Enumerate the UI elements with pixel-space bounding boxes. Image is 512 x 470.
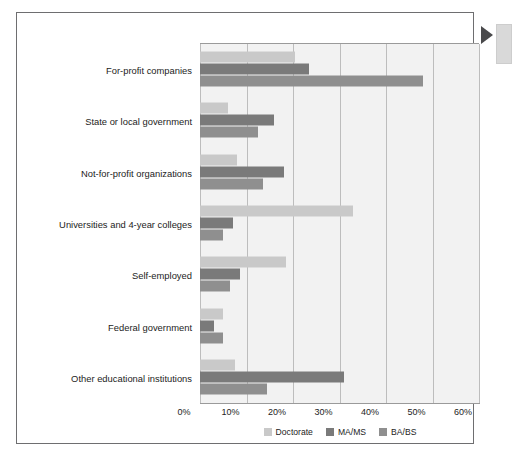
category-row: Self-employed xyxy=(200,250,479,301)
bar-group xyxy=(200,257,479,294)
x-tick-label: 40% xyxy=(361,407,379,417)
bar xyxy=(200,51,295,62)
bar xyxy=(200,384,267,395)
bar-group xyxy=(200,205,479,242)
category-row: State or local government xyxy=(200,95,479,146)
bar xyxy=(200,257,286,268)
bar xyxy=(200,154,237,165)
legend-swatch xyxy=(326,428,334,436)
legend-swatch xyxy=(379,428,387,436)
bar xyxy=(200,217,233,228)
category-label: Self-employed xyxy=(25,270,200,281)
bar xyxy=(200,103,228,114)
bar xyxy=(200,178,263,189)
x-tick-label: 10% xyxy=(221,407,239,417)
x-tick-label: 60% xyxy=(454,407,472,417)
legend-item: MA/MS xyxy=(326,427,366,437)
category-label: For-profit companies xyxy=(25,64,200,75)
bar xyxy=(200,127,258,138)
triangle-right-icon xyxy=(481,26,493,44)
category-row: For-profit companies xyxy=(200,44,479,95)
x-tick-label: 0% xyxy=(177,407,190,417)
legend-label: BA/BS xyxy=(391,427,416,437)
gridline xyxy=(479,44,480,403)
bar xyxy=(200,115,274,126)
bar-group xyxy=(200,308,479,345)
x-tick-label: 50% xyxy=(407,407,425,417)
category-label: Other educational institutions xyxy=(25,373,200,384)
bar xyxy=(200,269,240,280)
bar xyxy=(200,63,309,74)
legend-swatch xyxy=(264,428,272,436)
category-label: Universities and 4-year colleges xyxy=(25,218,200,229)
legend-label: MA/MS xyxy=(338,427,366,437)
chart-frame: For-profit companiesState or local gover… xyxy=(16,12,474,444)
bar-group xyxy=(200,360,479,397)
x-tick-label: 30% xyxy=(314,407,332,417)
bar xyxy=(200,308,223,319)
bar xyxy=(200,75,423,86)
bar xyxy=(200,332,223,343)
plot-area: For-profit companiesState or local gover… xyxy=(200,43,479,403)
legend-item: BA/BS xyxy=(379,427,416,437)
x-tick-label: 20% xyxy=(268,407,286,417)
bar xyxy=(200,372,344,383)
bar xyxy=(200,281,230,292)
legend-item: Doctorate xyxy=(264,427,313,437)
category-row: Universities and 4-year colleges xyxy=(200,198,479,249)
bar-group xyxy=(200,154,479,191)
bar-group xyxy=(200,51,479,88)
bar xyxy=(200,360,235,371)
category-label: Not-for-profit organizations xyxy=(25,167,200,178)
category-row: Federal government xyxy=(200,301,479,352)
bar xyxy=(200,229,223,240)
bar xyxy=(200,320,214,331)
category-row: Not-for-profit organizations xyxy=(200,147,479,198)
category-row: Other educational institutions xyxy=(200,353,479,404)
margin-note-block xyxy=(496,24,512,64)
chart-legend: DoctorateMA/MSBA/BS xyxy=(200,427,480,437)
x-axis-line xyxy=(200,403,480,404)
legend-label: Doctorate xyxy=(276,427,313,437)
bar xyxy=(200,205,353,216)
category-label: State or local government xyxy=(25,116,200,127)
category-label: Federal government xyxy=(25,321,200,332)
bar-group xyxy=(200,103,479,140)
bar xyxy=(200,166,284,177)
